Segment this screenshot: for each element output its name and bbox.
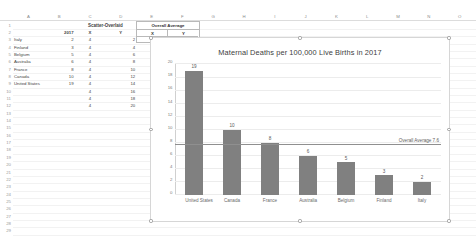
scatter-x-cell-12[interactable]: 4 bbox=[76, 102, 105, 109]
overall-average-line[interactable] bbox=[175, 144, 441, 145]
scatter-x-cell-11[interactable]: 4 bbox=[76, 95, 105, 102]
bar-finland[interactable]: 3Finland bbox=[375, 175, 392, 195]
scatter-y-cell-11[interactable]: 18 bbox=[106, 95, 135, 102]
value-cell-8[interactable]: 10 bbox=[45, 73, 74, 80]
chart-resize-handle-n[interactable] bbox=[298, 36, 301, 39]
scatter-x-cell-4[interactable]: 4 bbox=[76, 44, 105, 51]
row-header-10[interactable]: 10 bbox=[2, 88, 11, 95]
scatter-x-cell-6[interactable]: 4 bbox=[76, 58, 105, 65]
chart-resize-handle-s[interactable] bbox=[298, 219, 301, 222]
row-header-25[interactable]: 25 bbox=[2, 198, 11, 205]
scatter-y-cell-7[interactable]: 10 bbox=[106, 66, 135, 73]
bar-data-label-australia: 6 bbox=[299, 149, 316, 154]
chart-gridline bbox=[175, 129, 441, 130]
bar-data-label-finland: 3 bbox=[375, 169, 392, 174]
row-header-2[interactable]: 2 bbox=[2, 29, 11, 36]
bar-data-label-united-states: 19 bbox=[185, 64, 202, 69]
chart-resize-handle-nw[interactable] bbox=[149, 36, 152, 39]
scatter-y-cell-3[interactable]: 2 bbox=[106, 36, 135, 43]
y-axis-tick-6: 6 bbox=[159, 150, 173, 155]
value-cell-3[interactable]: 2 bbox=[45, 36, 74, 43]
scatter-y-cell-12[interactable]: 20 bbox=[106, 102, 135, 109]
chart-gridline bbox=[175, 63, 441, 64]
row-header-13[interactable]: 13 bbox=[2, 110, 11, 117]
row-header-6[interactable]: 6 bbox=[2, 58, 11, 65]
x-axis-label-united-states: United States bbox=[185, 198, 202, 203]
row-header-18[interactable]: 18 bbox=[2, 146, 11, 153]
scatter-x-cell-8[interactable]: 4 bbox=[76, 73, 105, 80]
chart-gridline bbox=[175, 103, 441, 104]
row-header-16[interactable]: 16 bbox=[2, 132, 11, 139]
scatter-x-cell-10[interactable]: 4 bbox=[76, 88, 105, 95]
row-header-9[interactable]: 9 bbox=[2, 80, 11, 87]
row-header-20[interactable]: 20 bbox=[2, 161, 11, 168]
row-header-4[interactable]: 4 bbox=[2, 44, 11, 51]
row-header-26[interactable]: 26 bbox=[2, 205, 11, 212]
scatter-x-cell-3[interactable]: 4 bbox=[76, 36, 105, 43]
row-header-27[interactable]: 27 bbox=[2, 213, 11, 220]
header-cell-d2[interactable]: Y bbox=[106, 29, 135, 36]
row-header-8[interactable]: 8 bbox=[2, 73, 11, 80]
x-axis-label-canada: Canada bbox=[223, 198, 240, 203]
value-cell-5[interactable]: 5 bbox=[45, 51, 74, 58]
value-cell-6[interactable]: 6 bbox=[45, 58, 74, 65]
row-header-24[interactable]: 24 bbox=[2, 191, 11, 198]
bar-belgium[interactable]: 5Belgium bbox=[337, 162, 354, 195]
chart-resize-handle-e[interactable] bbox=[447, 128, 450, 131]
row-header-14[interactable]: 14 bbox=[2, 117, 11, 124]
bar-data-label-italy: 2 bbox=[413, 175, 430, 180]
y-axis-tick-4: 4 bbox=[159, 164, 173, 169]
chart-resize-handle-w[interactable] bbox=[149, 128, 152, 131]
scatter-y-cell-5[interactable]: 6 bbox=[106, 51, 135, 58]
header-cell-c2[interactable]: X bbox=[76, 29, 105, 36]
scatter-x-cell-7[interactable]: 4 bbox=[76, 66, 105, 73]
country-cell-australia[interactable]: Australia bbox=[14, 58, 43, 65]
scatter-y-cell-8[interactable]: 12 bbox=[106, 73, 135, 80]
header-cell-b2[interactable]: 2017 bbox=[45, 29, 74, 36]
country-cell-united-states[interactable]: United States bbox=[14, 80, 43, 87]
bar-united-states[interactable]: 19United States bbox=[185, 71, 202, 195]
country-cell-canada[interactable]: Canada bbox=[14, 73, 43, 80]
y-axis-tick-0: 0 bbox=[159, 190, 173, 195]
row-header-12[interactable]: 12 bbox=[2, 102, 11, 109]
row-header-7[interactable]: 7 bbox=[2, 66, 11, 73]
country-cell-finland[interactable]: Finland bbox=[14, 44, 43, 51]
chart-object[interactable]: Maternal Deaths per 100,000 Live Births … bbox=[150, 37, 450, 222]
value-cell-9[interactable]: 19 bbox=[45, 80, 74, 87]
value-cell-7[interactable]: 8 bbox=[45, 66, 74, 73]
row-header-11[interactable]: 11 bbox=[2, 95, 11, 102]
row-header-1[interactable]: 1 bbox=[2, 22, 11, 29]
scatter-y-cell-10[interactable]: 16 bbox=[106, 88, 135, 95]
row-header-29[interactable]: 29 bbox=[2, 227, 11, 234]
row-header-17[interactable]: 17 bbox=[2, 139, 11, 146]
chart-resize-handle-ne[interactable] bbox=[447, 36, 450, 39]
row-header-5[interactable]: 5 bbox=[2, 51, 11, 58]
value-cell-4[interactable]: 3 bbox=[45, 44, 74, 51]
row-header-23[interactable]: 23 bbox=[2, 183, 11, 190]
bar-australia[interactable]: 6Australia bbox=[299, 156, 316, 195]
scatter-y-cell-6[interactable]: 8 bbox=[106, 58, 135, 65]
country-cell-france[interactable]: France bbox=[14, 66, 43, 73]
bar-france[interactable]: 8France bbox=[261, 143, 278, 195]
bar-canada[interactable]: 10Canada bbox=[223, 130, 240, 196]
scatter-x-cell-9[interactable]: 4 bbox=[76, 80, 105, 87]
country-cell-belgium[interactable]: Belgium bbox=[14, 51, 43, 58]
y-axis-tick-12: 12 bbox=[159, 111, 173, 116]
row-header-28[interactable]: 28 bbox=[2, 220, 11, 227]
scatter-y-cell-4[interactable]: 4 bbox=[106, 44, 135, 51]
row-header-19[interactable]: 19 bbox=[2, 154, 11, 161]
row-header-15[interactable]: 15 bbox=[2, 124, 11, 131]
plot-area: 0246810121416182019United States10Canada… bbox=[175, 64, 441, 195]
scatter-x-cell-5[interactable]: 4 bbox=[76, 51, 105, 58]
chart-gridline bbox=[175, 116, 441, 117]
row-header-3[interactable]: 3 bbox=[2, 36, 11, 43]
chart-resize-handle-sw[interactable] bbox=[149, 219, 152, 222]
scatter-y-cell-9[interactable]: 14 bbox=[106, 80, 135, 87]
chart-resize-handle-se[interactable] bbox=[447, 219, 450, 222]
bar-italy[interactable]: 2Italy bbox=[413, 182, 430, 195]
chart-title: Maternal Deaths per 100,000 Live Births … bbox=[151, 48, 449, 57]
country-cell-italy[interactable]: Italy bbox=[14, 36, 43, 43]
row-header-22[interactable]: 22 bbox=[2, 176, 11, 183]
scatter-overlaid-group-header[interactable]: Scatter-Overlaid bbox=[75, 22, 137, 29]
row-header-21[interactable]: 21 bbox=[2, 169, 11, 176]
